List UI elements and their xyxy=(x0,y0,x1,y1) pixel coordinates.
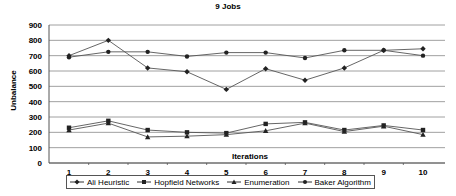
legend-item: Enumeration xyxy=(227,178,289,187)
diamond-marker-icon xyxy=(106,38,111,43)
circle-marker-icon xyxy=(67,55,71,59)
x-tick-label: 9 xyxy=(381,168,386,177)
y-tick-label: 400 xyxy=(29,98,43,107)
legend-label: Enumeration xyxy=(244,178,289,187)
diamond-marker-icon xyxy=(145,65,150,70)
legend-item: Hopfield Networks xyxy=(137,178,219,187)
legend-item: Baker Algorithm xyxy=(298,178,371,187)
y-tick-label: 600 xyxy=(29,67,43,76)
circle-marker-icon xyxy=(381,48,385,52)
y-tick-label: 900 xyxy=(29,21,43,30)
diamond-marker-icon xyxy=(263,66,268,71)
y-tick-label: 0 xyxy=(38,159,43,168)
y-tick-label: 700 xyxy=(29,52,43,61)
diamond-marker-icon xyxy=(224,87,229,92)
y-tick-label: 800 xyxy=(29,36,43,45)
series-line xyxy=(69,40,423,89)
legend: Ali HeuristicHopfield NetworksEnumeratio… xyxy=(66,175,375,189)
diamond-marker-icon xyxy=(184,69,189,74)
diamond-legend-icon xyxy=(70,178,84,186)
circle-marker-icon xyxy=(185,54,189,58)
square-marker-icon xyxy=(145,128,149,132)
circle-marker-icon xyxy=(224,50,228,54)
circle-marker-icon xyxy=(303,56,307,60)
diamond-marker-icon xyxy=(342,65,347,70)
square-marker-icon xyxy=(421,128,425,132)
square-marker-icon xyxy=(263,122,267,126)
legend-item: Ali Heuristic xyxy=(70,178,129,187)
circle-marker-icon xyxy=(145,50,149,54)
line-chart: 010020030040050060070080090012345678910 xyxy=(0,0,456,196)
y-tick-label: 300 xyxy=(29,113,43,122)
triangle-legend-icon xyxy=(227,178,241,186)
y-tick-label: 100 xyxy=(29,144,43,153)
circle-marker-icon xyxy=(342,48,346,52)
x-tick-label: 10 xyxy=(419,168,428,177)
circle-marker-icon xyxy=(421,53,425,57)
circle-marker-icon xyxy=(106,50,110,54)
legend-label: Ali Heuristic xyxy=(87,178,129,187)
series-line xyxy=(69,123,423,137)
series-line xyxy=(69,121,423,133)
legend-label: Hopfield Networks xyxy=(154,178,219,187)
diamond-marker-icon xyxy=(420,46,425,51)
y-tick-label: 500 xyxy=(29,82,43,91)
diamond-marker-icon xyxy=(302,78,307,83)
square-legend-icon xyxy=(137,178,151,186)
circle-marker-icon xyxy=(263,50,267,54)
circle-legend-icon xyxy=(298,178,312,186)
legend-label: Baker Algorithm xyxy=(315,178,371,187)
y-tick-label: 200 xyxy=(29,128,43,137)
